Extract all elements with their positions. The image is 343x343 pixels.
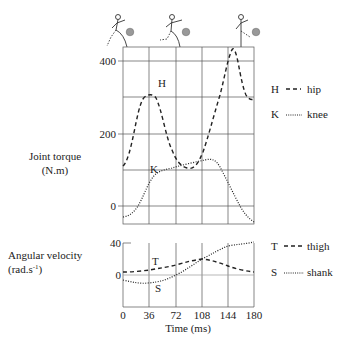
time-axis-title: Time (ms) <box>165 322 211 335</box>
time-tick-180: 180 <box>246 309 263 321</box>
legend-knee-label: knee <box>307 108 328 120</box>
velocity-axis-title: Angular velocity <box>8 249 83 261</box>
ball-icon <box>126 28 134 36</box>
shank-curve-label: S <box>155 282 161 294</box>
legend-thigh-symbol: T <box>271 240 278 252</box>
shank-velocity-line <box>123 242 254 283</box>
stick-figure-phase-3 <box>236 15 250 48</box>
time-tick-36: 36 <box>144 309 156 321</box>
knee-curve-label: K <box>150 163 158 175</box>
hip-torque-line <box>123 49 254 169</box>
velocity-axis-unit: (rad.s-1) <box>8 263 43 276</box>
legend-thigh-label: thigh <box>307 240 330 252</box>
kick-biomechanics-chart: H K 400 200 0 Joint torque (N.m) H hip K… <box>0 0 343 343</box>
torque-tick-400: 400 <box>100 55 117 67</box>
legend-hip-label: hip <box>307 83 322 95</box>
time-tick-108: 108 <box>194 309 211 321</box>
time-tick-0: 0 <box>120 309 126 321</box>
time-tick-144: 144 <box>220 309 237 321</box>
legend-knee-symbol: K <box>271 108 279 120</box>
velocity-tick-0: 0 <box>116 269 122 281</box>
torque-tick-200: 200 <box>100 128 117 140</box>
ball-icon <box>252 28 260 36</box>
thigh-velocity-line <box>123 259 254 272</box>
ball-icon <box>182 28 190 36</box>
torque-plot-grid <box>118 47 254 224</box>
legend-shank-label: shank <box>307 266 333 278</box>
thigh-curve-label: T <box>152 255 159 267</box>
velocity-plot-grid <box>123 243 254 307</box>
hip-curve-label: H <box>158 77 166 89</box>
torque-axis-unit: (N.m) <box>42 164 69 177</box>
torque-axis-title: Joint torque <box>29 150 81 162</box>
legend-shank-symbol: S <box>271 266 277 278</box>
torque-tick-0: 0 <box>111 200 117 212</box>
time-tick-72: 72 <box>171 309 182 321</box>
stick-figure-phase-1 <box>107 15 127 48</box>
time-axis-ticks: 0 36 72 108 144 180 <box>120 309 263 321</box>
stick-figure-phase-2 <box>160 15 182 48</box>
knee-torque-line <box>123 159 254 222</box>
velocity-tick-40: 40 <box>110 237 122 249</box>
legend-hip-symbol: H <box>271 83 279 95</box>
